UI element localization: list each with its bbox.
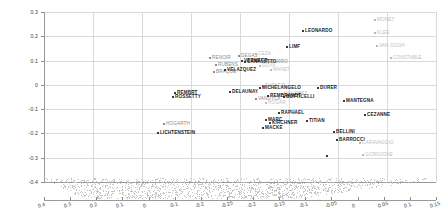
floor-stipple-dot: [150, 192, 151, 193]
floor-stipple-dot: [278, 184, 279, 185]
floor-stipple-dot: [199, 190, 200, 191]
floor-stipple-dot: [98, 182, 99, 183]
data-point: [244, 61, 246, 63]
y-tick-mark: [41, 85, 44, 86]
floor-stipple-dot: [119, 179, 120, 180]
floor-stipple-dot: [204, 190, 205, 191]
floor-stipple-dot: [95, 186, 96, 187]
floor-stipple-dot: [370, 184, 371, 185]
floor-stipple-dot: [320, 180, 321, 181]
y-tick-label: 0.2: [8, 33, 38, 39]
floor-stipple-dot: [251, 195, 252, 196]
floor-stipple-dot: [328, 179, 329, 180]
floor-stipple-dot: [109, 195, 110, 196]
floor-stipple-dot: [117, 198, 118, 199]
floor-stipple-dot: [107, 197, 108, 198]
floor-stipple-dot: [110, 187, 111, 188]
floor-stipple-dot: [119, 191, 120, 192]
point-label: MANTEGNA: [346, 98, 374, 103]
floor-stipple-dot: [380, 178, 381, 179]
floor-stipple-dot: [208, 194, 209, 195]
floor-stipple-dot: [251, 189, 252, 190]
floor-stipple-dot: [304, 183, 305, 184]
floor-stipple-dot: [381, 186, 382, 187]
floor-stipple-dot: [270, 193, 271, 194]
floor-stipple-dot: [294, 189, 295, 190]
floor-stipple-dot: [242, 184, 243, 185]
floor-stipple-dot: [163, 198, 164, 199]
floor-stipple-dot: [233, 197, 234, 198]
floor-stipple-dot: [165, 183, 166, 184]
y-tick-mark: [41, 158, 44, 159]
floor-stipple-dot: [235, 194, 236, 195]
floor-stipple-dot: [75, 187, 76, 188]
floor-stipple-dot: [174, 188, 175, 189]
floor-stipple-dot: [146, 187, 147, 188]
grid-line-horizontal: [44, 133, 436, 134]
floor-stipple-dot: [84, 195, 85, 196]
floor-stipple-dot: [296, 197, 297, 198]
floor-stipple-dot: [87, 185, 88, 186]
floor-stipple-dot: [425, 179, 426, 180]
data-point: [209, 57, 211, 59]
floor-stipple-dot: [312, 179, 313, 180]
floor-stipple-dot: [176, 192, 177, 193]
floor-stipple-dot: [241, 179, 242, 180]
data-point: [390, 57, 392, 59]
grid-line-vertical: [93, 12, 94, 182]
floor-stipple-dot: [232, 182, 233, 183]
floor-stipple-dot: [172, 192, 173, 193]
floor-stipple-dot: [301, 196, 302, 197]
floor-stipple-dot: [352, 179, 353, 180]
grid-line-horizontal: [44, 85, 436, 86]
floor-stipple-dot: [283, 195, 284, 196]
floor-stipple-dot: [136, 192, 137, 193]
floor-stipple-dot: [353, 185, 354, 186]
y-axis-spine: [44, 12, 45, 182]
floor-stipple-dot: [268, 193, 269, 194]
floor-stipple-dot: [77, 192, 78, 193]
floor-stipple-dot: [323, 185, 324, 186]
floor-stipple-dot: [60, 181, 61, 182]
floor-stipple-dot: [296, 187, 297, 188]
floor-stipple-dot: [289, 187, 290, 188]
floor-stipple-dot: [229, 193, 230, 194]
floor-stipple-dot: [175, 188, 176, 189]
floor-stipple-dot: [137, 180, 138, 181]
y-tick-mark: [41, 109, 44, 110]
floor-stipple-dot: [238, 197, 239, 198]
floor-stipple-dot: [233, 185, 234, 186]
x-tick-label: 0.05: [377, 200, 389, 209]
floor-stipple-dot: [178, 186, 179, 187]
floor-stipple-dot: [111, 195, 112, 196]
floor-stipple-dot: [348, 189, 349, 190]
floor-stipple-dot: [125, 187, 126, 188]
floor-stipple-dot: [301, 197, 302, 198]
floor-stipple-dot: [311, 196, 312, 197]
floor-stipple-dot: [125, 190, 126, 191]
floor-stipple-dot: [418, 179, 419, 180]
floor-stipple-dot: [384, 179, 385, 180]
floor-stipple-dot: [402, 181, 403, 182]
data-point: [229, 91, 231, 93]
data-point: [336, 139, 338, 141]
floor-stipple-dot: [287, 179, 288, 180]
floor-stipple-dot: [250, 192, 251, 193]
floor-stipple-dot: [260, 187, 261, 188]
point-label: CARAVAGGIO: [362, 140, 394, 145]
point-label: HOGARTH: [166, 121, 190, 126]
floor-stipple-dot: [63, 187, 64, 188]
floor-stipple-dot: [86, 181, 87, 182]
floor-stipple-dot: [206, 188, 207, 189]
floor-stipple-dot: [254, 181, 255, 182]
point-label: CEZANNE: [367, 112, 390, 117]
floor-stipple-dot: [330, 179, 331, 180]
floor-stipple-dot: [209, 190, 210, 191]
floor-stipple-dot: [152, 184, 153, 185]
floor-stipple-dot: [145, 183, 146, 184]
floor-stipple-dot: [215, 181, 216, 182]
floor-stipple-dot: [298, 178, 299, 179]
floor-stipple-dot: [190, 197, 191, 198]
floor-stipple-dot: [78, 186, 79, 187]
floor-stipple-dot: [309, 179, 310, 180]
